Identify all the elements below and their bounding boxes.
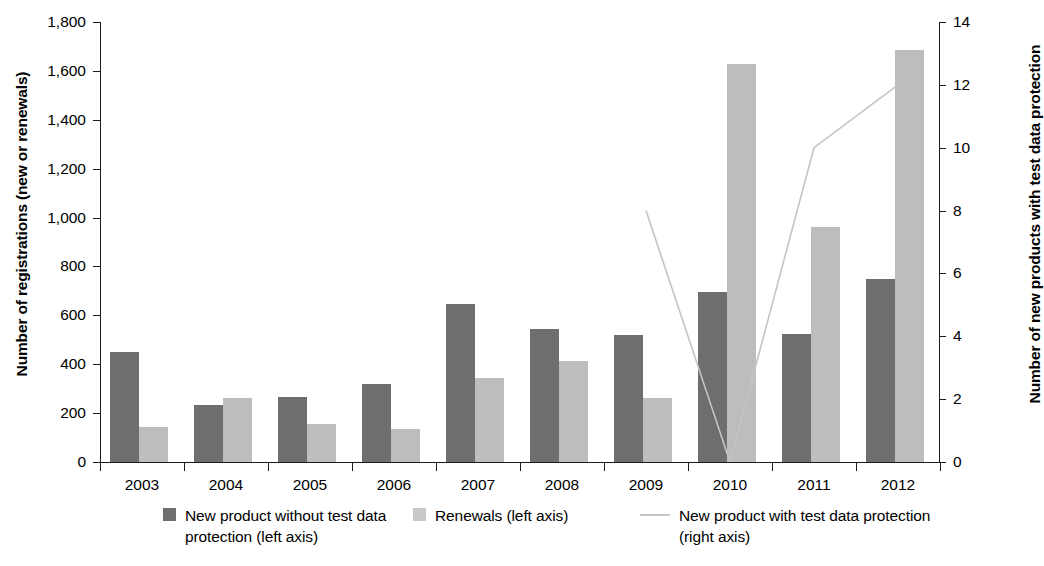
x-axis-tick-label: 2009 <box>601 477 691 493</box>
dark-square-swatch-icon <box>163 508 176 521</box>
x-axis-tick <box>856 463 857 471</box>
y-axis-left-tick <box>93 413 100 414</box>
y-axis-right-tick <box>939 211 946 212</box>
bar-new-product-without-protection <box>614 335 643 462</box>
y-axis-right-tick-label: 14 <box>953 14 1013 30</box>
x-axis-tick-label: 2010 <box>685 477 775 493</box>
y-axis-left-tick <box>93 120 100 121</box>
bar-group <box>866 22 930 462</box>
x-axis-tick <box>268 463 269 471</box>
y-axis-left-tick-label: 1,800 <box>0 14 86 30</box>
x-axis-tick <box>184 463 185 471</box>
bar-group <box>446 22 510 462</box>
y-axis-left-tick <box>93 22 100 23</box>
y-axis-left-tick <box>93 462 100 463</box>
x-axis-tick-label: 2005 <box>265 477 355 493</box>
y-axis-left-tick <box>93 315 100 316</box>
y-axis-right-tick-label: 12 <box>953 77 1013 93</box>
x-axis-tick <box>436 463 437 471</box>
x-axis-tick-label: 2008 <box>517 477 607 493</box>
bar-renewals <box>643 398 672 462</box>
x-axis-tick <box>520 463 521 471</box>
bar-renewals <box>475 378 504 462</box>
y-axis-left-tick <box>93 266 100 267</box>
bar-new-product-without-protection <box>782 334 811 462</box>
plot-area: 02004006008001,0001,2001,4001,6001,800 0… <box>100 22 940 462</box>
bar-new-product-without-protection <box>278 397 307 462</box>
y-axis-right-tick-label: 6 <box>953 265 1013 281</box>
y-axis-left-tick-label: 0 <box>0 454 86 470</box>
bar-renewals <box>559 361 588 462</box>
bar-new-product-without-protection <box>866 279 895 462</box>
bar-renewals <box>391 429 420 462</box>
bar-group <box>782 22 846 462</box>
legend-item-new-product-without-protection: New product without test data protection… <box>163 505 433 547</box>
legend-item-new-product-with-protection: New product with test data protection (r… <box>640 505 940 547</box>
bar-renewals <box>139 427 168 462</box>
bar-group <box>614 22 678 462</box>
y-axis-left-tick-label: 1,600 <box>0 63 86 79</box>
y-axis-right-tick-label: 10 <box>953 140 1013 156</box>
y-axis-left-tick <box>93 218 100 219</box>
bar-renewals <box>727 64 756 462</box>
y-axis-left-tick-label: 1,000 <box>0 210 86 226</box>
bar-renewals <box>895 50 924 462</box>
bar-new-product-without-protection <box>698 292 727 462</box>
x-axis-tick-label: 2011 <box>769 477 859 493</box>
legend-item-renewals: Renewals (left axis) <box>413 505 643 526</box>
bar-group <box>278 22 342 462</box>
y-axis-right-tick-label: 8 <box>953 203 1013 219</box>
y-axis-left-tick <box>93 169 100 170</box>
x-axis-tick <box>940 463 941 471</box>
y-axis-right-tick <box>939 336 946 337</box>
y-axis-right-title: Number of new products with test data pr… <box>1026 0 1044 454</box>
y-axis-left-tick-label: 1,400 <box>0 112 86 128</box>
bar-new-product-without-protection <box>110 352 139 462</box>
y-axis-right-tick-label: 4 <box>953 328 1013 344</box>
chart-legend: New product without test data protection… <box>0 505 1035 566</box>
bar-new-product-without-protection <box>530 329 559 462</box>
x-axis-tick <box>352 463 353 471</box>
x-axis-tick <box>604 463 605 471</box>
legend-label: New product with test data protection (r… <box>679 505 940 547</box>
bar-new-product-without-protection <box>446 304 475 462</box>
legend-label: New product without test data protection… <box>185 505 433 547</box>
x-axis-tick-label: 2003 <box>97 477 187 493</box>
x-axis-tick <box>688 463 689 471</box>
x-axis-tick <box>100 463 101 471</box>
bar-new-product-without-protection <box>194 405 223 462</box>
legend-label: Renewals (left axis) <box>435 505 568 526</box>
bar-renewals <box>307 424 336 462</box>
y-axis-right-tick-label: 0 <box>953 454 1013 470</box>
y-axis-left-tick-label: 200 <box>0 405 86 421</box>
y-axis-left-tick <box>93 71 100 72</box>
y-axis-right-tick <box>939 85 946 86</box>
x-axis-tick <box>772 463 773 471</box>
y-axis-right-tick <box>939 22 946 23</box>
bar-group <box>530 22 594 462</box>
bar-group <box>194 22 258 462</box>
x-axis-tick-label: 2004 <box>181 477 271 493</box>
bar-new-product-without-protection <box>362 384 391 462</box>
y-axis-right-tick <box>939 273 946 274</box>
bar-group <box>362 22 426 462</box>
bar-renewals <box>811 227 840 462</box>
bar-group <box>698 22 762 462</box>
line-swatch-icon <box>640 508 670 521</box>
bar-group <box>110 22 174 462</box>
x-axis-tick-label: 2006 <box>349 477 439 493</box>
x-axis-tick-label: 2012 <box>853 477 943 493</box>
y-axis-left-line <box>100 22 101 462</box>
light-square-swatch-icon <box>413 508 426 521</box>
y-axis-left-tick-label: 1,200 <box>0 161 86 177</box>
y-axis-right-tick-label: 2 <box>953 391 1013 407</box>
x-axis-tick-label: 2007 <box>433 477 523 493</box>
line-series-path <box>646 85 898 462</box>
y-axis-right-tick <box>939 399 946 400</box>
y-axis-right-line <box>939 22 940 462</box>
y-axis-left-tick <box>93 364 100 365</box>
y-axis-left-tick-label: 800 <box>0 258 86 274</box>
y-axis-right-tick <box>939 148 946 149</box>
y-axis-left-tick-label: 600 <box>0 307 86 323</box>
